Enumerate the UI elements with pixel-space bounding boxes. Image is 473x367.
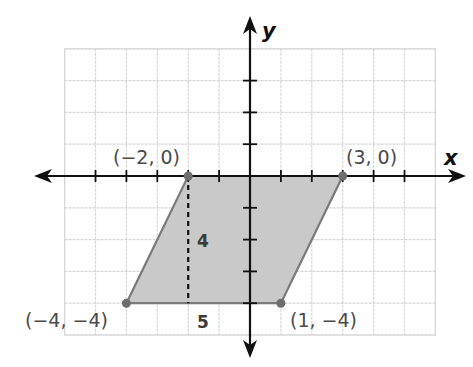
parallelogram [126,176,342,303]
vertex-label-c: (1, −4) [290,311,357,330]
height-label: 4 [197,233,209,250]
base-label: 5 [197,314,209,331]
vertex-label-d: (−4, −4) [25,311,108,330]
coordinate-plane-diagram: y x (−2, 0) (3, 0) (1, −4) (−4, −4) 4 5 [0,0,473,367]
vertex-label-a: (−2, 0) [113,148,180,167]
x-axis-label: x [444,148,458,169]
y-axis-label: y [262,21,276,42]
axes [34,16,466,358]
vertex-label-b: (3, 0) [346,148,397,167]
